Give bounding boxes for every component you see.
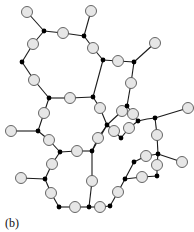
open-node <box>113 56 124 67</box>
open-node <box>128 109 139 120</box>
open-node <box>86 6 97 17</box>
junction-node <box>132 60 137 65</box>
open-node <box>109 126 120 137</box>
junction-node <box>153 116 158 121</box>
open-node <box>22 7 33 18</box>
open-node <box>28 39 39 50</box>
junction-node <box>101 58 106 63</box>
open-nodes-layer <box>6 6 194 213</box>
open-node <box>150 38 161 49</box>
junction-node <box>87 205 92 210</box>
open-node <box>126 78 137 89</box>
junction-node <box>20 60 25 65</box>
open-node <box>29 75 40 86</box>
figure-label: (b) <box>5 216 19 231</box>
open-node <box>113 187 124 198</box>
open-node <box>70 202 81 213</box>
edge <box>125 162 134 179</box>
junction-node <box>119 136 124 141</box>
junction-node <box>155 174 160 179</box>
open-node <box>124 123 135 134</box>
open-node <box>177 157 188 168</box>
network-diagram <box>0 0 194 232</box>
junction-node <box>123 177 128 182</box>
open-node <box>72 146 83 157</box>
junction-node <box>36 129 41 134</box>
junction-node <box>125 104 130 109</box>
junction-node <box>43 177 48 182</box>
open-node <box>152 130 163 141</box>
open-node <box>152 160 163 171</box>
junction-node <box>132 160 137 165</box>
junction-node <box>105 123 110 128</box>
open-node <box>39 108 50 119</box>
open-node <box>88 43 99 54</box>
junction-node <box>90 149 95 154</box>
open-node <box>47 159 58 170</box>
junction-node <box>136 119 141 124</box>
open-node <box>183 103 194 114</box>
open-node <box>137 172 148 183</box>
open-node <box>95 202 106 213</box>
open-node <box>65 93 76 104</box>
junction-node <box>57 205 62 210</box>
open-node <box>95 103 106 114</box>
open-node <box>87 176 98 187</box>
edge <box>93 60 103 97</box>
open-node <box>16 173 27 184</box>
open-node <box>6 126 17 137</box>
junction-node <box>156 152 161 157</box>
junction-node <box>47 96 52 101</box>
junction-node <box>58 150 63 155</box>
junction-node <box>91 95 96 100</box>
open-node <box>46 188 57 199</box>
open-node <box>93 133 104 144</box>
open-node <box>44 135 55 146</box>
junction-node <box>42 29 47 34</box>
junction-node <box>82 34 87 39</box>
open-node <box>58 28 69 39</box>
junction-node <box>108 204 113 209</box>
open-node <box>141 151 152 162</box>
